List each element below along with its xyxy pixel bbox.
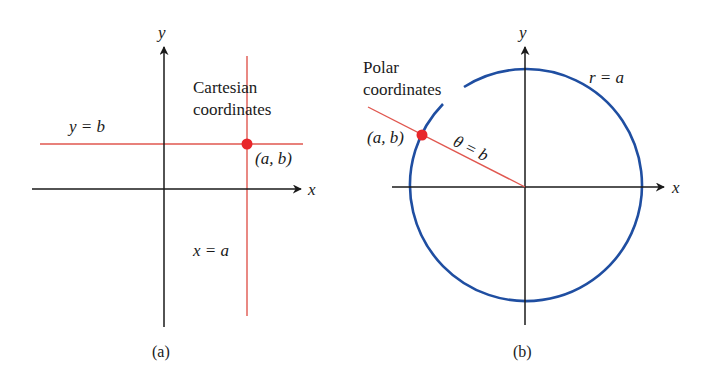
x-axis-label-b: x — [671, 178, 680, 197]
point-label-cartesian: (a, b) — [255, 149, 292, 168]
cartesian-title-line1: Cartesian — [193, 78, 258, 97]
r-equals-a-label: r = a — [589, 68, 624, 87]
polar-title-line2: coordinates — [363, 80, 441, 99]
y-equals-b-label: y = b — [67, 117, 105, 136]
y-axis-label-b: y — [517, 23, 527, 42]
ray-theta-equals-b — [368, 107, 525, 187]
point-a-b-cartesian — [242, 139, 253, 150]
circle-r-equals-a — [410, 69, 642, 301]
panel-b-polar: y x Polar coordinates r = a (a, b) θ = b… — [363, 23, 680, 361]
caption-b: (b) — [513, 343, 532, 361]
x-axis-label-a: x — [307, 180, 316, 199]
cartesian-title-line2: coordinates — [193, 100, 271, 119]
polar-title-line1: Polar — [363, 58, 399, 77]
y-axis-label-a: y — [156, 23, 166, 42]
coordinate-systems-diagram: y x Cartesian coordinates y = b (a, b) x… — [0, 0, 710, 368]
point-a-b-polar — [417, 130, 428, 141]
point-label-polar: (a, b) — [367, 128, 404, 147]
x-equals-a-label: x = a — [192, 241, 229, 260]
caption-a: (a) — [152, 343, 170, 361]
theta-equals-b-label: θ = b — [450, 132, 491, 166]
panel-a-cartesian: y x Cartesian coordinates y = b (a, b) x… — [32, 23, 316, 361]
